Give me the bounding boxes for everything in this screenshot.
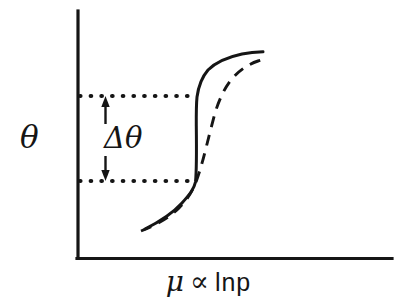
proportional-to-icon: ∝ xyxy=(185,265,215,298)
figure-plot xyxy=(0,0,417,307)
x-axis-label: μ∝lnp xyxy=(0,268,417,296)
solid-curve xyxy=(145,52,263,229)
delta-theta-label: Δθ xyxy=(104,124,142,153)
figure-canvas: θ Δθ μ∝lnp xyxy=(0,0,417,307)
x-axis-label-variable: μ xyxy=(166,265,185,298)
dashed-curve xyxy=(141,59,265,231)
y-axis-label: θ xyxy=(20,122,39,153)
x-axis-label-expression: lnp xyxy=(215,268,251,296)
